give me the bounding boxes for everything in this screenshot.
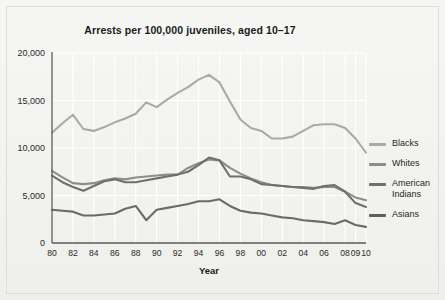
legend-label: Asians xyxy=(392,209,419,220)
legend-label: Whites xyxy=(392,158,420,169)
legend-label: Blacks xyxy=(392,138,419,149)
series-line-asians xyxy=(52,199,366,227)
x-tick-label: 00 xyxy=(257,248,267,258)
legend-item[interactable]: Asians xyxy=(369,209,443,220)
x-axis-tick-labels: 8082848688909294969800020406080910 xyxy=(47,248,371,258)
series-line-blacks xyxy=(52,75,366,153)
x-tick-label: 04 xyxy=(298,248,308,258)
x-tick-label: 02 xyxy=(277,248,287,258)
series-line-whites xyxy=(52,159,366,200)
legend-swatch-icon xyxy=(369,183,386,186)
x-tick-label: 10 xyxy=(361,248,371,258)
x-tick-label: 08 xyxy=(340,248,350,258)
y-tick-label: 20,000 xyxy=(17,48,45,58)
x-axis-title: Year xyxy=(199,265,219,276)
legend-item[interactable]: Blacks xyxy=(369,138,443,149)
x-tick-label: 82 xyxy=(68,248,78,258)
x-tick-label: 92 xyxy=(173,248,183,258)
legend-item[interactable]: Whites xyxy=(369,158,443,169)
x-tick-label: 98 xyxy=(236,248,246,258)
y-tick-label: 15,000 xyxy=(17,96,45,106)
y-tick-label: 0 xyxy=(40,238,45,248)
y-tick-label: 10,000 xyxy=(17,143,45,153)
chart-legend: BlacksWhitesAmerican IndiansAsians xyxy=(369,138,443,229)
x-tick-label: 80 xyxy=(47,248,57,258)
series-lines xyxy=(52,75,366,227)
legend-swatch-icon xyxy=(369,143,386,146)
x-tick-label: 94 xyxy=(194,248,204,258)
y-tick-label: 5,000 xyxy=(22,191,45,201)
legend-item[interactable]: American Indians xyxy=(369,178,443,200)
y-axis-tick-labels: 05,00010,00015,00020,000 xyxy=(17,48,45,248)
legend-swatch-icon xyxy=(369,163,386,166)
legend-label: American Indians xyxy=(392,178,443,200)
x-tick-label: 84 xyxy=(89,248,99,258)
x-tick-label: 90 xyxy=(152,248,162,258)
x-tick-label: 06 xyxy=(319,248,329,258)
x-tick-label: 88 xyxy=(131,248,141,258)
x-tick-label: 09 xyxy=(351,248,361,258)
legend-swatch-icon xyxy=(369,214,386,217)
chart-figure: Arrests per 100,000 juveniles, aged 10–1… xyxy=(0,0,445,300)
x-tick-label: 96 xyxy=(215,248,225,258)
x-tick-label: 86 xyxy=(110,248,120,258)
